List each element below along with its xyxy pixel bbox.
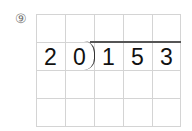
problem-number-label: ⑨ [15,12,27,26]
grid-hline [36,14,181,15]
grid-hline [36,70,181,71]
division-overline [90,41,181,43]
grid-hline [36,98,181,99]
divisor-digit-tens: 2 [36,42,65,70]
dividend-digit-hundreds: 1 [94,42,123,70]
grid-hline [36,126,181,127]
dividend-digit-tens: 5 [123,42,152,70]
dividend-digit-ones: 3 [152,42,181,70]
long-division-grid: 2 0 1 5 3 [36,14,181,127]
